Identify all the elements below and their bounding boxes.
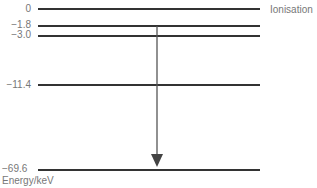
transition-arrow-icon xyxy=(0,0,317,188)
